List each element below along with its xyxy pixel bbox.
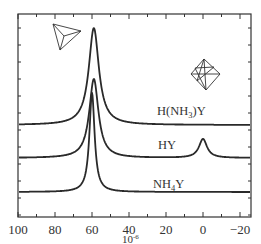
- x-tick-label: −20: [230, 222, 250, 237]
- trace-nh4y: [19, 93, 250, 192]
- trace-h-nh3-y: [19, 28, 250, 125]
- trace-hy: [19, 79, 250, 158]
- x-tick-label: 60: [86, 222, 99, 237]
- x-tick-label: 100: [8, 222, 28, 237]
- octahedron-icon: [191, 59, 220, 90]
- series-label-nh4y: NH4Y: [153, 177, 184, 193]
- axis-ticks: [18, 14, 251, 217]
- plot-frame: [18, 14, 251, 217]
- series-label-h-nh3-y: H(NH3)Y: [157, 104, 206, 120]
- series-label-hy: HY: [158, 138, 176, 152]
- nmr-spectrum-chart: H(NH3)Y HY NH4Y 100 80 60 40 20 0 −20 10…: [0, 0, 261, 244]
- x-tick-label: 20: [160, 222, 173, 237]
- x-tick-label: 0: [200, 222, 207, 237]
- x-axis-unit-label: 10-6: [122, 233, 139, 244]
- x-tick-label: 80: [49, 222, 62, 237]
- tetrahedron-icon: [53, 24, 81, 50]
